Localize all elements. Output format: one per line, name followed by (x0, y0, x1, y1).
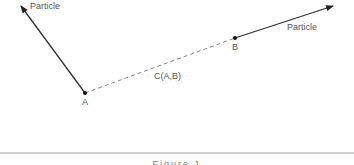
diagram-canvas: Particle Particle A B C(A,B) (0, 0, 354, 165)
particle-b-arrow (235, 6, 333, 38)
connection-label: C(A,B) (154, 71, 181, 81)
point-b (233, 36, 237, 40)
point-a (83, 91, 87, 95)
figure-caption: Figure 1 (0, 159, 354, 165)
point-b-label: B (232, 42, 238, 52)
connection-line (85, 38, 235, 93)
particle-a-label: Particle (30, 1, 60, 11)
particle-b-label: Particle (287, 22, 317, 32)
particle-a-arrow (21, 6, 85, 93)
point-a-label: A (82, 97, 88, 107)
